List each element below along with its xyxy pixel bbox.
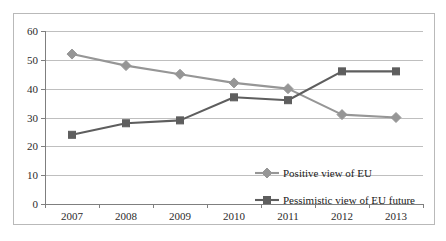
- data-point-marker-diamond: [391, 113, 401, 123]
- x-tick-label: 2013: [385, 210, 408, 222]
- y-tick-label: 10: [27, 169, 39, 181]
- data-point-marker-diamond: [262, 168, 272, 178]
- y-tick-label: 30: [27, 112, 39, 124]
- y-tick-label: 50: [27, 54, 39, 66]
- data-point-marker-diamond: [283, 84, 293, 94]
- y-tick-label: 40: [27, 83, 39, 95]
- data-point-marker-diamond: [229, 78, 239, 88]
- data-point-marker-diamond: [67, 49, 77, 59]
- axes: [41, 31, 424, 208]
- data-point-marker-diamond: [175, 69, 185, 79]
- data-point-marker-square: [69, 131, 76, 138]
- y-tick-label: 20: [27, 140, 39, 152]
- data-series-layer: [67, 49, 401, 138]
- data-point-marker-square: [123, 120, 130, 127]
- x-tick-label: 2011: [277, 210, 299, 222]
- x-tick-label: 2007: [61, 210, 84, 222]
- data-point-marker-square: [393, 68, 400, 75]
- x-axis-tick-labels: 2007200820092010201120122013: [61, 210, 408, 222]
- line-chart: 0102030405060 20072008200920102011201220…: [14, 14, 436, 226]
- data-point-marker-square: [264, 197, 271, 204]
- legend-label: Positive view of EU: [283, 167, 372, 179]
- chart-frame: 0102030405060 20072008200920102011201220…: [13, 13, 435, 225]
- x-tick-label: 2012: [331, 210, 353, 222]
- chart-legend: Positive view of EUPessimistic view of E…: [255, 167, 415, 206]
- x-tick-label: 2009: [169, 210, 192, 222]
- legend-label: Pessimistic view of EU future: [283, 194, 415, 206]
- x-tick-label: 2008: [115, 210, 138, 222]
- data-point-marker-square: [177, 117, 184, 124]
- data-point-marker-diamond: [121, 61, 131, 71]
- legend-entry-1: Positive view of EU: [255, 167, 372, 179]
- y-tick-label: 60: [27, 25, 39, 37]
- y-axis-tick-labels: 0102030405060: [27, 25, 39, 210]
- data-point-marker-square: [339, 68, 346, 75]
- y-tick-label: 0: [33, 198, 39, 210]
- data-point-marker-square: [285, 97, 292, 104]
- x-tick-label: 2010: [223, 210, 246, 222]
- data-point-marker-square: [231, 94, 238, 101]
